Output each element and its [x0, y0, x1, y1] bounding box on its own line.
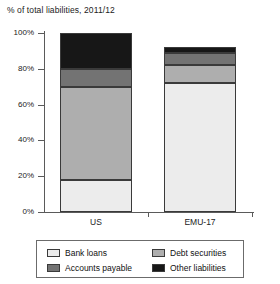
legend-label: Other liabilities	[170, 263, 226, 273]
bar-segment-debt-securities	[60, 69, 132, 87]
y-axis-tick	[38, 33, 45, 34]
legend-item-other-liabilities[interactable]: Other liabilities	[152, 263, 226, 273]
x-axis-tick	[252, 212, 253, 217]
legend-label: Bank loans	[65, 248, 107, 258]
chart-legend: Bank loansDebt securitiesAccounts payabl…	[36, 240, 244, 278]
bar-segment-bank-loans	[60, 180, 132, 212]
y-axis-tick-label: 80%	[0, 64, 34, 73]
y-axis-tick	[38, 69, 45, 70]
bar-us	[60, 33, 132, 212]
bar-segment-bank-loans	[164, 83, 236, 212]
y-axis-tick-label: 60%	[0, 100, 34, 109]
legend-label: Debt securities	[170, 248, 226, 258]
x-axis-tick	[148, 212, 149, 217]
bar-segment-other-liabilities	[60, 33, 132, 69]
y-axis-line	[44, 31, 45, 213]
y-axis-tick	[38, 176, 45, 177]
x-axis-label-us: US	[51, 217, 141, 227]
y-axis-tick-label: 100%	[0, 28, 34, 37]
legend-swatch-icon	[152, 249, 165, 257]
y-axis-tick-label: 20%	[0, 171, 34, 180]
legend-item-accounts-payable[interactable]: Accounts payable	[47, 263, 132, 273]
legend-swatch-icon	[47, 264, 60, 272]
stacked-bar-chart: % of total liabilities, 2011/12 0%20%40%…	[0, 0, 280, 284]
bar-segment-other-liabilities	[164, 47, 236, 52]
legend-item-bank-loans[interactable]: Bank loans	[47, 248, 107, 258]
y-axis-tick	[38, 105, 45, 106]
y-axis-tick	[38, 140, 45, 141]
bar-segment-accounts-payable	[60, 87, 132, 180]
x-axis-line	[44, 212, 254, 213]
y-axis-tick-label: 40%	[0, 135, 34, 144]
x-axis-label-emu-17: EMU-17	[155, 217, 245, 227]
legend-item-debt-securities[interactable]: Debt securities	[152, 248, 226, 258]
legend-label: Accounts payable	[65, 263, 132, 273]
y-axis-tick-label: 0%	[0, 207, 34, 216]
bar-emu-17	[164, 33, 236, 212]
bar-segment-debt-securities	[164, 53, 236, 66]
y-axis-tick	[38, 212, 45, 213]
chart-title: % of total liabilities, 2011/12	[7, 5, 115, 15]
legend-swatch-icon	[47, 249, 60, 257]
legend-swatch-icon	[152, 264, 165, 272]
bar-segment-accounts-payable	[164, 65, 236, 83]
